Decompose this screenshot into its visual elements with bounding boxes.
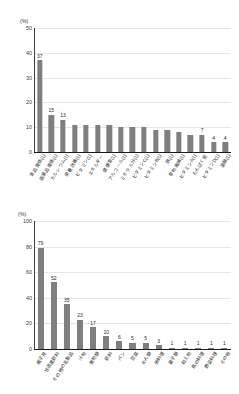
- y-axis-tick-label: 80: [26, 244, 32, 250]
- bar-value-label: 1: [197, 341, 200, 346]
- bar-value-label: 1: [171, 341, 174, 346]
- category-label: 和え物: [181, 351, 193, 366]
- bar-slot: [150, 28, 162, 152]
- bar: [51, 282, 57, 349]
- bar: [49, 115, 54, 152]
- bar-slot: [104, 28, 116, 152]
- y-axis-tick-label: 60: [26, 269, 32, 275]
- bar: [169, 348, 175, 349]
- bar-slot: 6: [113, 221, 126, 349]
- category-label: 飲料: [105, 351, 114, 362]
- bar: [143, 343, 149, 349]
- category-labels-bottom: 親子丼甘酒風飲料その他の乳製品汁物煮物類飲料パン豆腐めん類卵料理菓子類和え物魚の…: [34, 351, 231, 394]
- bar-value-label: 35: [64, 298, 70, 303]
- bar-value-label: 17: [90, 321, 96, 326]
- bar-slot: 1: [178, 221, 191, 349]
- category-labels-top: 食品関係(1)医薬品関係(1)カルシウム(1)栄養改善(1)ビタミン(1)エネル…: [34, 154, 231, 197]
- bar-slot: 13: [57, 28, 69, 152]
- bar-slot: 4: [219, 28, 231, 152]
- bar: [199, 135, 204, 152]
- bar-slot: 1: [192, 221, 205, 349]
- bar-value-label: 5: [144, 336, 147, 341]
- y-axis-tick-label: 20: [26, 320, 32, 326]
- bar-value-label: 7: [201, 128, 204, 133]
- bar-value-label: 79: [38, 241, 44, 246]
- bar: [107, 125, 112, 152]
- bars-top: 371513744: [34, 28, 231, 152]
- bar-value-label: 4: [212, 136, 215, 141]
- y-axis-tick-label: 100: [23, 218, 32, 224]
- category-label: 煮物類: [89, 351, 101, 366]
- bar-value-label: 1: [184, 341, 187, 346]
- category-label: その他: [220, 351, 232, 366]
- bar-slot: 4: [208, 28, 220, 152]
- bar: [38, 248, 44, 349]
- y-axis-tick-label: 0: [29, 346, 32, 352]
- bar-slot: 1: [205, 221, 218, 349]
- bars-bottom: 795235231710655311111: [34, 221, 231, 349]
- bar: [195, 348, 201, 349]
- bar-slot: [127, 28, 139, 152]
- y-axis-tick-label: 0: [29, 149, 32, 155]
- bar-slot: 3: [152, 221, 165, 349]
- y-axis-tick-label: 40: [26, 295, 32, 301]
- bar: [141, 127, 146, 152]
- bar: [156, 345, 162, 349]
- chart-top: (%) 01020304050 371513744 食品関係(1)医薬品関係(1…: [0, 0, 239, 197]
- bar-value-label: 4: [224, 136, 227, 141]
- plot-area-bottom: 020406080100 795235231710655311111: [34, 221, 231, 349]
- bar-slot: 10: [100, 221, 113, 349]
- bar-slot: [138, 28, 150, 152]
- bar-slot: [69, 28, 81, 152]
- bar: [77, 320, 83, 349]
- bar: [223, 142, 228, 152]
- bar-value-label: 13: [60, 113, 66, 118]
- bar-value-label: 23: [77, 313, 83, 318]
- bar-slot: [185, 28, 197, 152]
- bar-value-label: 6: [118, 335, 121, 340]
- category-label: 汁物: [78, 351, 87, 362]
- bar: [208, 348, 214, 349]
- bar-value-label: 3: [157, 339, 160, 344]
- bar-slot: [92, 28, 104, 152]
- bar: [165, 130, 170, 152]
- bar-slot: 35: [60, 221, 73, 349]
- bar-slot: 5: [126, 221, 139, 349]
- bar-value-label: 52: [51, 276, 57, 281]
- bar-value-label: 15: [49, 108, 55, 113]
- y-axis-tick-label: 20: [26, 99, 32, 105]
- bar-slot: 79: [34, 221, 47, 349]
- y-axis-tick-label: 50: [26, 25, 32, 31]
- bar: [188, 135, 193, 152]
- y-unit-label-top: (%): [20, 18, 28, 24]
- bar: [95, 125, 100, 152]
- bar: [90, 327, 96, 349]
- y-axis-tick-label: 40: [26, 50, 32, 56]
- category-label: パン: [118, 351, 127, 362]
- bar: [103, 336, 109, 349]
- bar-value-label: 5: [131, 336, 134, 341]
- bar-slot: [115, 28, 127, 152]
- bar: [176, 132, 181, 152]
- bar-value-label: 1: [223, 341, 226, 346]
- category-label: 野菜料理: [205, 351, 219, 370]
- bar-slot: 15: [46, 28, 58, 152]
- bar-slot: 5: [139, 221, 152, 349]
- y-axis-tick-label: 30: [26, 75, 32, 81]
- axis-baseline: [34, 152, 231, 153]
- plot-area-top: 01020304050 371513744: [34, 28, 231, 152]
- category-label: めん類: [142, 351, 154, 366]
- figure-page: (%) 01020304050 371513744 食品関係(1)医薬品関係(1…: [0, 0, 239, 394]
- category-label: 鉄(1): [165, 154, 174, 165]
- chart-bottom: (%) 020406080100 795235231710655311111 親…: [0, 197, 239, 394]
- bar: [64, 304, 70, 349]
- bar-value-label: 10: [103, 330, 109, 335]
- category-label: 葉酸(1): [220, 154, 232, 169]
- bar-slot: 37: [34, 28, 46, 152]
- bar: [129, 343, 135, 349]
- bar: [182, 348, 188, 349]
- bar-slot: [161, 28, 173, 152]
- bar: [153, 130, 158, 152]
- bar: [37, 60, 42, 152]
- category-label: 菓子類: [168, 351, 180, 366]
